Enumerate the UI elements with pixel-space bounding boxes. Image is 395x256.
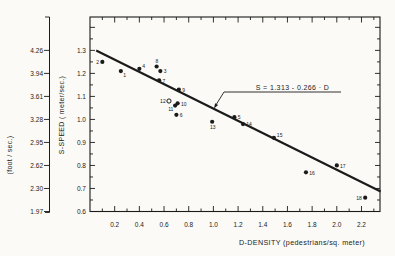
data-point bbox=[232, 115, 236, 119]
data-point-label: 8 bbox=[156, 58, 159, 64]
data-point-label: 14 bbox=[246, 121, 252, 127]
data-point-label: 16 bbox=[309, 170, 315, 176]
data-point-label: 12 bbox=[160, 98, 166, 104]
equation-leader-line bbox=[217, 92, 225, 104]
data-point bbox=[335, 163, 339, 167]
data-point-label: 17 bbox=[340, 163, 346, 169]
data-point bbox=[174, 113, 178, 117]
y-tick-label-meter: 1.1 bbox=[77, 93, 86, 100]
y-tick-label-meter: 0.7 bbox=[77, 185, 86, 192]
data-point-label: 1 bbox=[123, 72, 126, 78]
data-point bbox=[272, 136, 276, 140]
y-tick-label-meter: 0.9 bbox=[77, 139, 86, 146]
x-tick-label: 0.6 bbox=[160, 221, 169, 228]
foot-tick-label: 2.62 bbox=[30, 162, 43, 169]
foot-tick-label: 1.97 bbox=[30, 208, 43, 215]
y-tick-label-meter: 1.3 bbox=[77, 47, 86, 54]
data-point bbox=[158, 69, 162, 73]
foot-tick-label: 3.28 bbox=[30, 116, 43, 123]
data-point bbox=[155, 64, 159, 68]
data-point bbox=[177, 87, 181, 91]
data-point-label: 4 bbox=[142, 63, 145, 69]
data-point bbox=[157, 78, 161, 82]
y-axis-title-foot: (foot / sec.) bbox=[6, 136, 14, 175]
data-point-label: 13 bbox=[210, 124, 216, 130]
data-point-label: 2 bbox=[96, 59, 99, 65]
chart-generated-layer: 0.20.40.60.81.01.21.41.61.82.02.21.31.21… bbox=[30, 17, 380, 228]
x-tick-label: 1.2 bbox=[234, 221, 243, 228]
speed-density-scatter-chart: 0.20.40.60.81.01.21.41.61.82.02.21.31.21… bbox=[0, 0, 395, 256]
data-point bbox=[173, 104, 177, 108]
data-point-label: 15 bbox=[277, 132, 283, 138]
x-tick-label: 2.2 bbox=[357, 221, 366, 228]
foot-tick-label: 3.94 bbox=[30, 70, 43, 77]
data-point-open bbox=[167, 99, 171, 103]
x-tick-label: 1.6 bbox=[283, 221, 292, 228]
regression-equation-label: S = 1.313 - 0.266 · D bbox=[256, 84, 330, 91]
equation-arrowhead bbox=[214, 103, 218, 108]
data-point-label: 6 bbox=[180, 112, 183, 118]
x-tick-label: 0.4 bbox=[135, 221, 144, 228]
x-tick-label: 0.2 bbox=[110, 221, 119, 228]
data-point bbox=[363, 196, 367, 200]
data-point-label: 5 bbox=[238, 114, 241, 120]
figure-container: 0.20.40.60.81.01.21.41.61.82.02.21.31.21… bbox=[0, 0, 395, 256]
foot-tick-label: 4.26 bbox=[30, 47, 43, 54]
data-point-label: 11 bbox=[168, 106, 173, 112]
x-tick-label: 0.8 bbox=[184, 221, 193, 228]
data-point bbox=[119, 69, 123, 73]
data-point bbox=[100, 60, 104, 64]
data-point bbox=[137, 67, 141, 71]
y-tick-label-meter: 0.8 bbox=[77, 162, 86, 169]
y-tick-label-meter: 1.0 bbox=[77, 116, 86, 123]
x-axis-title: D-DENSITY (pedestrians/sq. meter) bbox=[239, 238, 365, 247]
foot-tick-label: 2.30 bbox=[30, 185, 43, 192]
y-tick-label-meter: 1.2 bbox=[77, 70, 86, 77]
foot-tick-label: 3.61 bbox=[30, 93, 43, 100]
regression-line bbox=[96, 50, 380, 191]
x-tick-label: 1.8 bbox=[308, 221, 317, 228]
data-point-label: 3 bbox=[164, 68, 167, 74]
y-axis-title-meter: S-SPEED ( meter/sec.) bbox=[58, 76, 66, 154]
foot-tick-label: 2.95 bbox=[30, 139, 43, 146]
data-point-label: 18 bbox=[356, 195, 362, 201]
x-tick-label: 1.0 bbox=[209, 221, 218, 228]
data-point-label: 10 bbox=[181, 101, 187, 107]
data-point bbox=[304, 170, 308, 174]
x-tick-label: 2.0 bbox=[332, 221, 341, 228]
x-tick-label: 1.4 bbox=[258, 221, 267, 228]
plot-frame bbox=[90, 17, 380, 212]
data-point-label: 7 bbox=[162, 78, 165, 84]
y-tick-label-meter: 0.6 bbox=[77, 208, 86, 215]
data-point bbox=[241, 122, 245, 126]
data-point-label: 9 bbox=[182, 87, 185, 93]
